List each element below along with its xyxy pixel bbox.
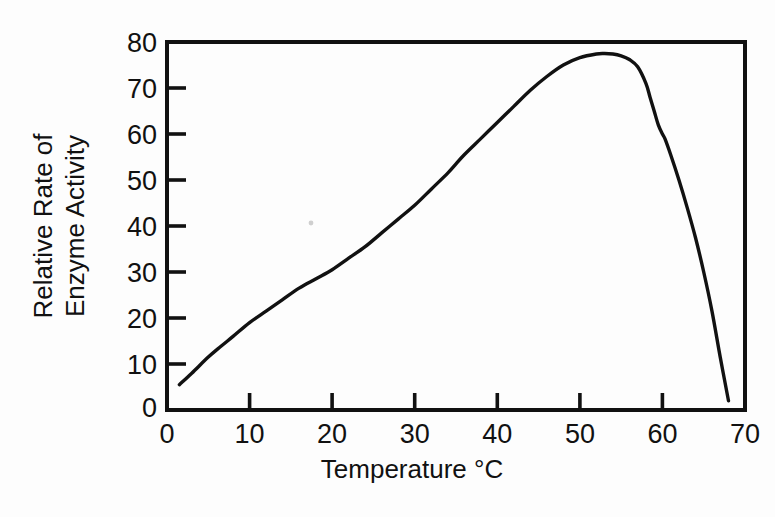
y-tick-label-60: 60 bbox=[127, 120, 157, 150]
x-tick-label-10: 10 bbox=[235, 419, 265, 449]
y-tick-label-10: 10 bbox=[127, 350, 157, 380]
figure-container: 80 70 60 50 40 30 20 10 0 0 10 20 30 40 … bbox=[0, 0, 775, 517]
x-tick-label-60: 60 bbox=[647, 419, 677, 449]
enzyme-activity-curve bbox=[179, 53, 728, 400]
y-tick-label-20: 20 bbox=[127, 304, 157, 334]
x-tick-label-20: 20 bbox=[317, 419, 347, 449]
y-axis-title-line1: Relative Rate of bbox=[28, 133, 58, 319]
x-axis-tick-labels: 0 10 20 30 40 50 60 70 bbox=[159, 419, 760, 449]
y-tick-label-70: 70 bbox=[127, 74, 157, 104]
x-tick-label-30: 30 bbox=[400, 419, 430, 449]
plot-frame bbox=[167, 42, 745, 410]
x-tick-label-50: 50 bbox=[565, 419, 595, 449]
scan-speck-artifact bbox=[309, 221, 314, 226]
y-axis-ticks bbox=[167, 88, 186, 364]
x-axis-ticks bbox=[250, 393, 663, 410]
y-axis-tick-labels: 80 70 60 50 40 30 20 10 0 bbox=[127, 28, 157, 423]
y-tick-label-80: 80 bbox=[127, 28, 157, 58]
x-tick-label-40: 40 bbox=[482, 419, 512, 449]
enzyme-activity-chart: 80 70 60 50 40 30 20 10 0 0 10 20 30 40 … bbox=[0, 0, 775, 517]
x-tick-label-70: 70 bbox=[730, 419, 760, 449]
y-tick-label-30: 30 bbox=[127, 258, 157, 288]
y-axis-title: Relative Rate of Enzyme Activity bbox=[28, 133, 90, 319]
y-axis-title-line2: Enzyme Activity bbox=[60, 135, 90, 317]
y-tick-label-40: 40 bbox=[127, 212, 157, 242]
x-tick-label-0: 0 bbox=[159, 419, 174, 449]
y-tick-label-0: 0 bbox=[142, 393, 157, 423]
x-axis-title: Temperature °C bbox=[321, 454, 503, 484]
y-tick-label-50: 50 bbox=[127, 166, 157, 196]
